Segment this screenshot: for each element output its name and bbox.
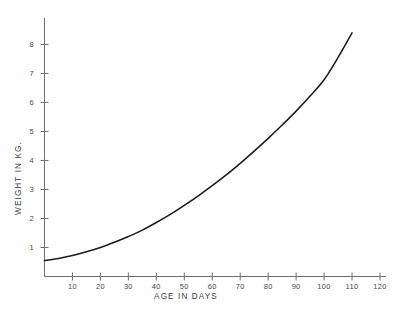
x-tick-label: 90: [292, 282, 301, 291]
y-tick-label: 5: [30, 127, 34, 136]
x-tick-label: 70: [236, 282, 245, 291]
y-tick-label: 3: [30, 185, 34, 194]
x-tick-label: 110: [346, 282, 359, 291]
x-tick-label: 10: [68, 282, 77, 291]
x-tick-label: 80: [264, 282, 273, 291]
x-tick-label: 50: [180, 282, 189, 291]
y-tick-label: 8: [30, 40, 34, 49]
weight-curve: [45, 33, 353, 261]
y-axis-tick-labels: 12345678: [30, 40, 34, 252]
x-axis-tick-labels: 102030405060708090100110120: [68, 282, 387, 291]
y-axis-title: WEIGHT IN KG.: [14, 141, 23, 215]
x-tick-label: 60: [208, 282, 217, 291]
y-tick-label: 1: [30, 243, 34, 252]
growth-line-chart: 12345678 102030405060708090100110120 AGE…: [0, 0, 404, 318]
chart-container: 12345678 102030405060708090100110120 AGE…: [0, 0, 404, 318]
x-tick-label: 40: [152, 282, 161, 291]
x-tick-label: 120: [373, 282, 386, 291]
y-tick-label: 4: [30, 156, 34, 165]
x-axis-title: AGE IN DAYS: [154, 292, 218, 301]
x-tick-label: 100: [317, 282, 330, 291]
y-tick-label: 2: [30, 214, 34, 223]
x-tick-label: 20: [96, 282, 105, 291]
y-tick-label: 7: [30, 69, 34, 78]
y-tick-label: 6: [30, 98, 34, 107]
x-tick-label: 30: [124, 282, 133, 291]
